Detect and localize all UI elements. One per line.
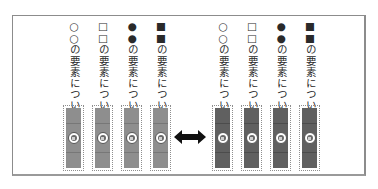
- circle-button-icon: [68, 132, 80, 144]
- right-card-3: [270, 105, 291, 171]
- left-card-3: [121, 105, 142, 171]
- left-card-4: [150, 105, 171, 171]
- circle-button-icon: [217, 132, 229, 144]
- left-card-1: [63, 105, 84, 171]
- right-card-1: [212, 105, 233, 171]
- circle-button-icon: [275, 132, 287, 144]
- double-headed-arrow-icon: [174, 130, 206, 144]
- circle-button-icon: [304, 132, 316, 144]
- circle-button-icon: [97, 132, 109, 144]
- circle-button-icon: [246, 132, 258, 144]
- circle-button-icon: [155, 132, 167, 144]
- right-card-2: [241, 105, 262, 171]
- left-card-2: [92, 105, 113, 171]
- right-card-4: [299, 105, 320, 171]
- circle-button-icon: [126, 132, 138, 144]
